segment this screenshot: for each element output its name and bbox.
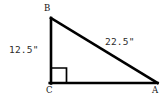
right-angle-marker-icon bbox=[51, 68, 67, 83]
vertex-label-a: A bbox=[152, 86, 158, 95]
vertex-label-c: C bbox=[46, 86, 53, 95]
vertex-label-b: B bbox=[44, 4, 50, 13]
side-ab-length-label: 22.5" bbox=[105, 37, 135, 47]
geometry-figure: 12.5" 22.5" B C A bbox=[0, 0, 165, 100]
side-bc-length-label: 12.5" bbox=[9, 45, 39, 55]
